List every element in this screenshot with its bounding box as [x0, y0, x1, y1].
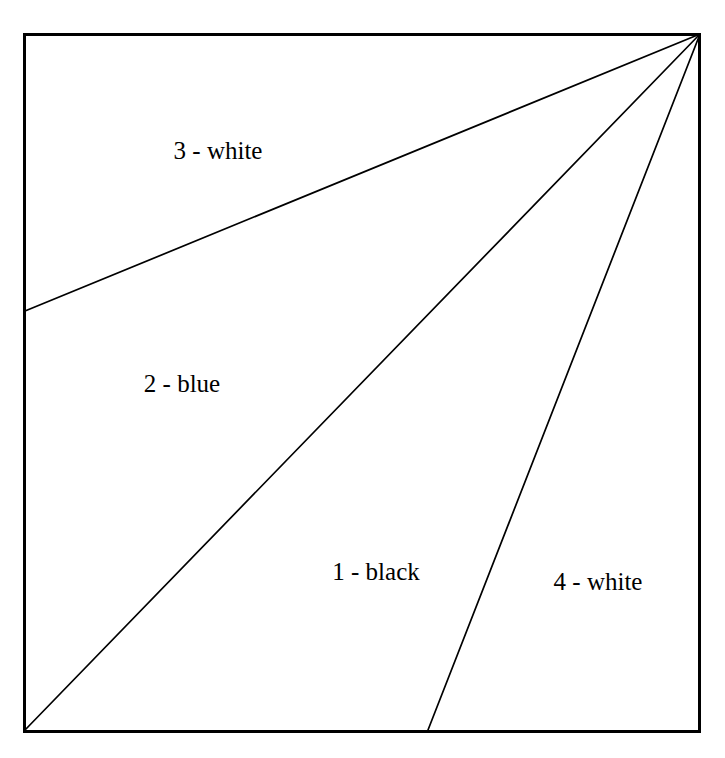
region-label-2: 2 - blue: [144, 371, 220, 396]
region-label-3: 3 - white: [174, 138, 263, 163]
region-label-4: 4 - white: [554, 569, 643, 594]
diagram-svg: [0, 0, 725, 758]
region-label-1: 1 - black: [332, 559, 419, 584]
figure-canvas: --- 3 - white 2 - blue 1 - black 4 - whi…: [0, 0, 725, 758]
